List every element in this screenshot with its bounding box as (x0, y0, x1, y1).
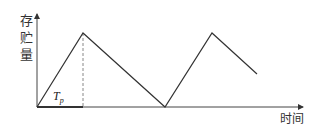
period-label-main: T (53, 89, 60, 103)
period-label-sub: p (60, 96, 64, 105)
period-label: Tp (53, 89, 64, 105)
x-axis-label: 时间 (280, 109, 304, 126)
inventory-diagram (0, 0, 319, 132)
inventory-curve (37, 33, 257, 107)
